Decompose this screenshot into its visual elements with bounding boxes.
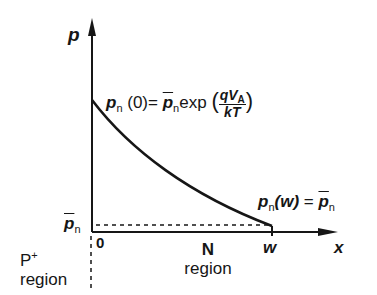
n-region-suffix: region [180, 259, 236, 278]
p-plus-region-suffix: region [20, 270, 67, 289]
pn-bar-symbol: p [64, 214, 74, 233]
eq0-num-subscript: A [238, 94, 245, 105]
eq0-fraction: qVAkT [219, 88, 246, 119]
origin-label: 0 [96, 234, 104, 251]
eq0-num-text: qV [220, 87, 238, 103]
boundary-equation-xw: pn(w) = pn [258, 192, 335, 212]
eq0-rhs-subscript: n [173, 102, 179, 114]
y-axis-arrowhead [88, 18, 96, 36]
p-plus-region-label: P+ region [20, 246, 67, 289]
eqw-equals: = [304, 192, 314, 211]
eq0-lhs-subscript: n [116, 102, 122, 114]
p-plus-region-name: P+ [20, 246, 67, 270]
equilibrium-pn-marker: pn [64, 214, 81, 234]
eq0-lhs-arg: (0) [127, 93, 148, 112]
eq0-close-paren: ) [246, 88, 253, 113]
p-plus-superscript: + [31, 249, 37, 261]
eqw-rhs-subscript: n [329, 201, 335, 213]
eqw-rhs-symbol: p [318, 192, 328, 211]
p-plus-letter: P [20, 251, 31, 270]
eq0-fraction-numerator: qVA [219, 88, 246, 105]
eq0-equals: = [148, 93, 158, 112]
eqw-lhs-symbol: p [258, 192, 268, 211]
eq0-lhs-symbol: p [106, 93, 116, 112]
eq0-fraction-denominator: kT [219, 105, 246, 119]
w-label: w [263, 238, 276, 258]
x-axis-arrowhead [318, 228, 338, 236]
y-axis-label: p [68, 24, 80, 46]
n-region-label: N region [180, 240, 236, 278]
boundary-equation-x0: pn (0)= pnexp (qVAkT) [106, 88, 253, 119]
pn-subscript: n [74, 223, 80, 235]
n-region-name: N [180, 240, 236, 259]
eq0-rhs-symbol: p [163, 93, 173, 112]
eqw-lhs-arg: (w) [275, 192, 300, 211]
x-axis-label: x [334, 238, 343, 258]
eq0-open-paren: ( [211, 88, 218, 113]
eqw-lhs-subscript: n [268, 201, 274, 213]
eq0-func: exp [179, 93, 206, 112]
